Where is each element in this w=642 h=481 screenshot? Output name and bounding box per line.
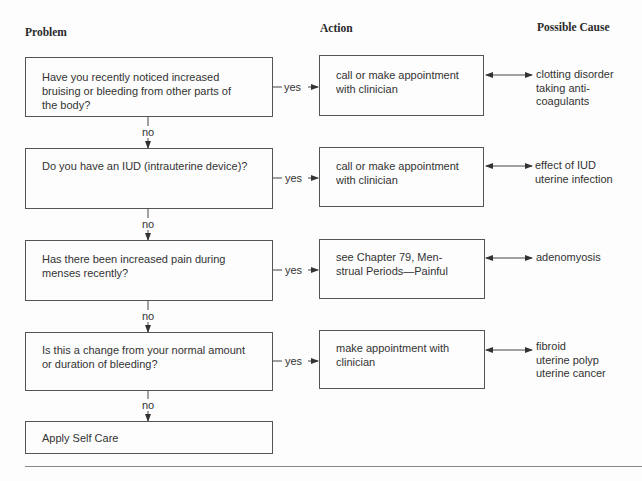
action-text-4: make appointment with clinician bbox=[336, 341, 449, 369]
question-text-4: Is this a change from your normal amount… bbox=[42, 343, 245, 371]
question-box-1: Have you recently noticed increased brui… bbox=[25, 57, 273, 117]
possible-cause-4: fibroid uterine polyp uterine cancer bbox=[536, 340, 606, 381]
self-care-text: Apply Self Care bbox=[42, 431, 118, 445]
action-box-3: see Chapter 79, Men- strual Periods—Pain… bbox=[319, 239, 485, 299]
yes-label-1: yes bbox=[284, 81, 301, 93]
possible-cause-1: clotting disorder taking anti- coagulant… bbox=[536, 68, 614, 109]
self-care-box: Apply Self Care bbox=[25, 421, 273, 454]
yes-label-3: yes bbox=[285, 264, 302, 276]
no-label-1: no bbox=[142, 126, 154, 138]
no-label-2: no bbox=[142, 218, 154, 230]
question-text-3: Has there been increased pain during men… bbox=[42, 252, 225, 280]
question-text-2: Do you have an IUD (intrauterine device)… bbox=[42, 159, 247, 173]
action-text-3: see Chapter 79, Men- strual Periods—Pain… bbox=[336, 250, 448, 278]
possible-cause-2: effect of IUD uterine infection bbox=[535, 159, 613, 186]
no-label-4: no bbox=[142, 399, 154, 411]
action-box-2: call or make appointment with clinician bbox=[319, 147, 484, 207]
yes-label-2: yes bbox=[285, 172, 302, 184]
bottom-divider bbox=[25, 466, 642, 467]
question-box-2: Do you have an IUD (intrauterine device)… bbox=[25, 148, 273, 209]
possible-cause-3: adenomyosis bbox=[536, 251, 601, 265]
question-text-1: Have you recently noticed increased brui… bbox=[42, 70, 231, 112]
action-box-1: call or make appointment with clinician bbox=[319, 55, 484, 116]
action-text-2: call or make appointment with clinician bbox=[336, 159, 459, 187]
action-text-1: call or make appointment with clinician bbox=[336, 68, 459, 96]
action-box-4: make appointment with clinician bbox=[319, 330, 485, 389]
question-box-3: Has there been increased pain during men… bbox=[25, 240, 273, 301]
yes-label-4: yes bbox=[285, 355, 302, 367]
no-label-3: no bbox=[142, 310, 154, 322]
question-box-4: Is this a change from your normal amount… bbox=[25, 332, 273, 391]
